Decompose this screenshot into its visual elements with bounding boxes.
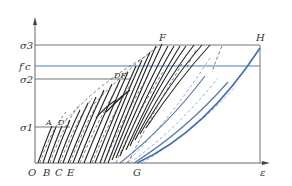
x-axis-labels: O B C E G ε: [28, 167, 265, 178]
point-e-label: E: [66, 167, 75, 178]
point-h-label: H: [255, 32, 265, 43]
stress-strain-diagram: σ3 f′c σ2 σ1 O B C E G ε A D′ DF′ F H: [0, 0, 292, 186]
y-axis-labels: σ3 f′c σ2 σ1: [18, 40, 33, 133]
fc-label: f′c: [18, 61, 31, 72]
cyclic-curves-blue: [120, 48, 260, 163]
sigma1-label: σ1: [20, 122, 33, 133]
point-b-label: B: [42, 167, 50, 178]
point-d-prime-label: D′: [57, 118, 66, 127]
strain-axis-label: ε: [260, 167, 265, 178]
sigma2-label: σ2: [20, 74, 33, 85]
x-axis-arrow-icon: [262, 161, 270, 165]
point-f-label: F: [158, 32, 167, 43]
sigma3-label: σ3: [20, 40, 33, 51]
point-df-prime-label: DF′: [113, 71, 128, 80]
origin-label: O: [28, 167, 36, 178]
axes: [33, 17, 270, 165]
point-c-label: C: [55, 167, 63, 178]
y-axis-arrow-icon: [33, 17, 37, 25]
point-g-label: G: [133, 167, 141, 178]
point-a-label: A: [45, 118, 52, 127]
